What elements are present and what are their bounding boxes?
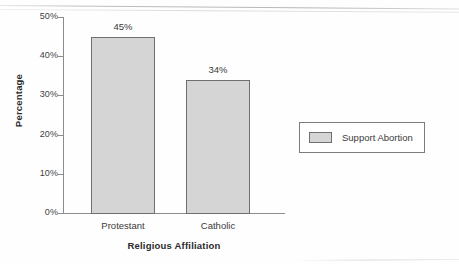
bar <box>91 37 155 214</box>
y-axis-tick-label: 10% <box>6 169 58 178</box>
y-axis-tick-label: 30% <box>6 90 58 99</box>
y-axis-tick-label-wrap: 50% <box>0 12 58 21</box>
y-axis-tick-label-wrap: 20% <box>0 130 58 139</box>
legend-swatch-support-abortion <box>309 132 332 143</box>
y-axis-tick <box>58 95 63 96</box>
legend-item: Support Abortion <box>300 123 424 152</box>
x-axis-category-label: Protestant <box>79 220 167 231</box>
y-axis-tick <box>58 17 63 18</box>
legend: Support Abortion <box>299 122 425 153</box>
legend-label: Support Abortion <box>342 132 413 143</box>
x-axis-category-label: Catholic <box>174 220 262 231</box>
chart-page: Percentage 0%10%20%30%40%50% 45%34% Prot… <box>0 0 459 264</box>
x-axis-title: Religious Affiliation <box>63 240 285 251</box>
bar-chart-plot-area: Percentage 0%10%20%30%40%50% 45%34% Prot… <box>0 0 459 264</box>
y-axis-tick-label-wrap: 10% <box>0 169 58 178</box>
y-axis-tick <box>58 213 63 214</box>
y-axis-tick <box>58 135 63 136</box>
y-axis-tick-label: 50% <box>6 12 58 21</box>
y-axis-tick-label: 20% <box>6 130 58 139</box>
y-axis-tick-label-wrap: 40% <box>0 51 58 60</box>
y-axis-tick-label-wrap: 30% <box>0 90 58 99</box>
bar-value-label: 34% <box>186 65 250 75</box>
y-axis-tick-label: 0% <box>6 208 58 217</box>
y-axis-tick-label: 40% <box>6 51 58 60</box>
y-axis-tick <box>58 174 63 175</box>
y-axis-tick <box>58 56 63 57</box>
bar-value-label: 45% <box>91 22 155 32</box>
bar <box>186 80 250 214</box>
y-axis-tick-label-wrap: 0% <box>0 208 58 217</box>
y-axis-line <box>63 17 64 214</box>
